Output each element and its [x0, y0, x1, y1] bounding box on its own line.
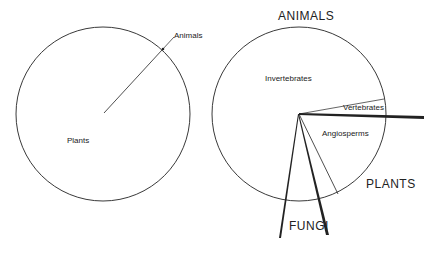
left-plants-label: Plants — [67, 136, 89, 145]
angiosperms-boundary-line — [299, 114, 338, 194]
animals-pointer-dot — [162, 48, 165, 51]
left-radius-line — [104, 50, 162, 113]
invertebrates-label: Invertebrates — [265, 74, 312, 83]
animals-heading: ANIMALS — [278, 9, 334, 23]
angiosperms-label: Angiosperms — [322, 129, 369, 138]
right-pie — [212, 27, 424, 238]
left-pie — [16, 27, 190, 201]
diagram-canvas — [0, 0, 436, 253]
animals-plants-divider — [299, 113, 424, 119]
left-circle — [16, 27, 190, 201]
vertebrates-label: Vertebrates — [343, 103, 384, 112]
plants-heading: PLANTS — [366, 177, 416, 191]
left-animals-label: Animals — [174, 31, 202, 40]
fungi-heading: FUNGI — [289, 219, 329, 233]
